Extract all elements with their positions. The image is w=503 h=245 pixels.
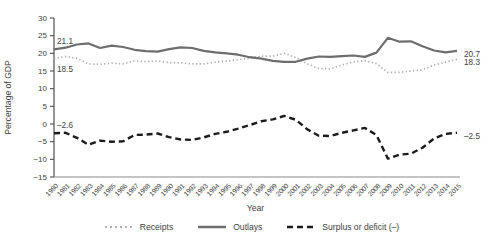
svg-text:–2.5: –2.5 bbox=[464, 132, 480, 141]
svg-text:18.3: 18.3 bbox=[464, 58, 480, 67]
legend-item-surplus-deficit: Surplus or deficit (–) bbox=[286, 222, 399, 232]
svg-text:Year: Year bbox=[247, 203, 265, 213]
svg-text:25: 25 bbox=[38, 31, 47, 40]
svg-text:0: 0 bbox=[43, 120, 48, 129]
svg-text:2015: 2015 bbox=[447, 182, 462, 197]
surplus-deficit-line-swatch-icon bbox=[286, 222, 316, 232]
svg-text:5: 5 bbox=[43, 102, 48, 111]
gdp-chart-figure: 302520151050−5−10−1519801981198219831984… bbox=[0, 0, 503, 245]
svg-text:30: 30 bbox=[38, 14, 47, 23]
svg-text:18.5: 18.5 bbox=[57, 65, 73, 74]
receipts-line-swatch-icon bbox=[104, 222, 134, 232]
svg-text:21.1: 21.1 bbox=[57, 37, 73, 46]
svg-text:−15: −15 bbox=[33, 173, 47, 182]
svg-text:–2.6: –2.6 bbox=[57, 121, 73, 130]
legend-label-surplus-deficit: Surplus or deficit (–) bbox=[322, 222, 399, 232]
svg-text:10: 10 bbox=[38, 84, 47, 93]
legend-item-outlays: Outlays bbox=[197, 222, 262, 232]
svg-text:−10: −10 bbox=[33, 155, 47, 164]
legend-label-receipts: Receipts bbox=[140, 222, 173, 232]
outlays-line-swatch-icon bbox=[197, 222, 227, 232]
svg-text:−5: −5 bbox=[38, 137, 48, 146]
svg-text:15: 15 bbox=[38, 67, 47, 76]
svg-text:Percentage of GDP: Percentage of GDP bbox=[3, 60, 13, 135]
legend-item-receipts: Receipts bbox=[104, 222, 173, 232]
legend-label-outlays: Outlays bbox=[233, 222, 262, 232]
gdp-line-chart: 302520151050−5−10−1519801981198219831984… bbox=[0, 0, 503, 245]
chart-legend: Receipts Outlays Surplus or deficit (–) bbox=[0, 216, 503, 238]
svg-text:20: 20 bbox=[38, 49, 47, 58]
